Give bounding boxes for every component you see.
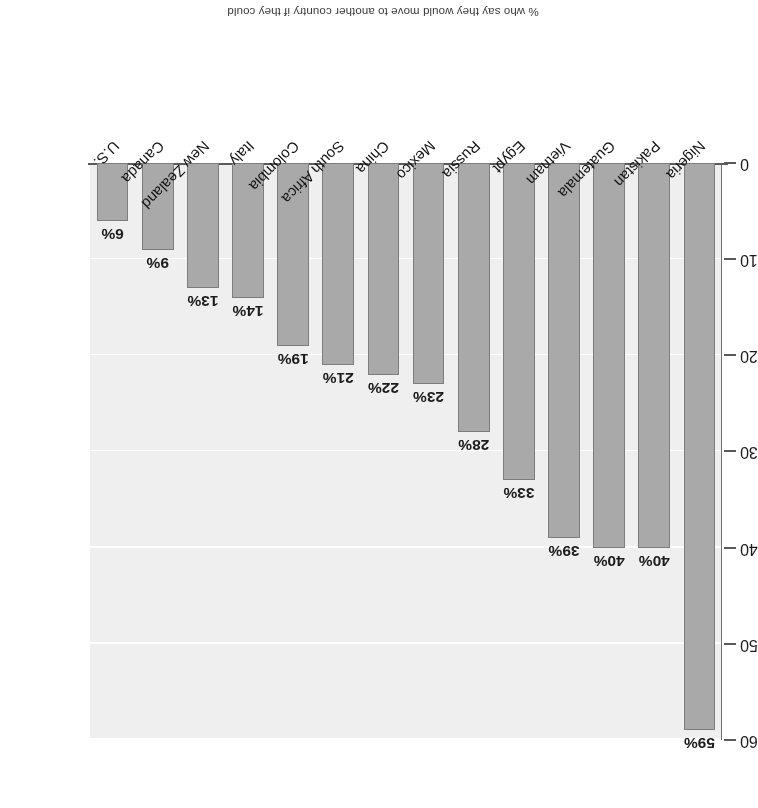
- gridline: [90, 642, 721, 644]
- y-axis-tick-label: 0: [740, 155, 758, 173]
- bar-vietnam[interactable]: [548, 163, 580, 538]
- chart-title: % who say they would move to another cou…: [148, 0, 618, 18]
- bar-egypt[interactable]: [503, 163, 535, 480]
- bar-mexico[interactable]: [413, 163, 445, 384]
- value-label-new-zealand: 13%: [172, 292, 233, 310]
- y-axis-tick-label: 30: [740, 444, 758, 462]
- bar-guatemala[interactable]: [593, 163, 625, 548]
- y-axis-tick-label: 20: [740, 347, 758, 365]
- gridline: [90, 738, 721, 740]
- value-label-nigeria: 59%: [669, 734, 730, 752]
- y-axis-tick-mark: [724, 451, 736, 453]
- value-label-canada: 9%: [127, 254, 188, 272]
- y-axis-tick-label: 50: [740, 636, 758, 654]
- bar-south-africa[interactable]: [323, 163, 355, 365]
- gridline: [90, 354, 721, 356]
- y-axis-tick-label: 10: [740, 251, 758, 269]
- value-label-colombia: 19%: [263, 350, 324, 368]
- bar-nigeria[interactable]: [684, 163, 716, 730]
- y-axis-tick-mark: [724, 258, 736, 260]
- bar-china[interactable]: [368, 163, 400, 375]
- gridline: [90, 546, 721, 548]
- value-label-egypt: 33%: [488, 484, 549, 502]
- y-axis-tick-label: 60: [740, 732, 758, 750]
- y-axis-tick-label: 40: [740, 540, 758, 558]
- bar-pakistan[interactable]: [639, 163, 671, 548]
- bar-new-zealand[interactable]: [187, 163, 219, 288]
- y-axis-tick-mark: [724, 354, 736, 356]
- gridline: [90, 450, 721, 452]
- value-label-vietnam: 39%: [533, 542, 594, 560]
- value-label-u-s: 6%: [82, 225, 143, 243]
- bar-russia[interactable]: [458, 163, 490, 432]
- value-label-south-africa: 21%: [308, 369, 369, 387]
- bar-chart-figure: % who say they would move to another cou…: [0, 0, 758, 808]
- y-axis-tick-mark: [724, 643, 736, 645]
- rotated-figure-wrapper: % who say they would move to another cou…: [0, 0, 758, 808]
- plot-area: [90, 163, 722, 740]
- y-axis-tick-mark: [724, 547, 736, 549]
- value-label-russia: 28%: [443, 436, 504, 454]
- y-axis-tick-mark: [724, 162, 736, 164]
